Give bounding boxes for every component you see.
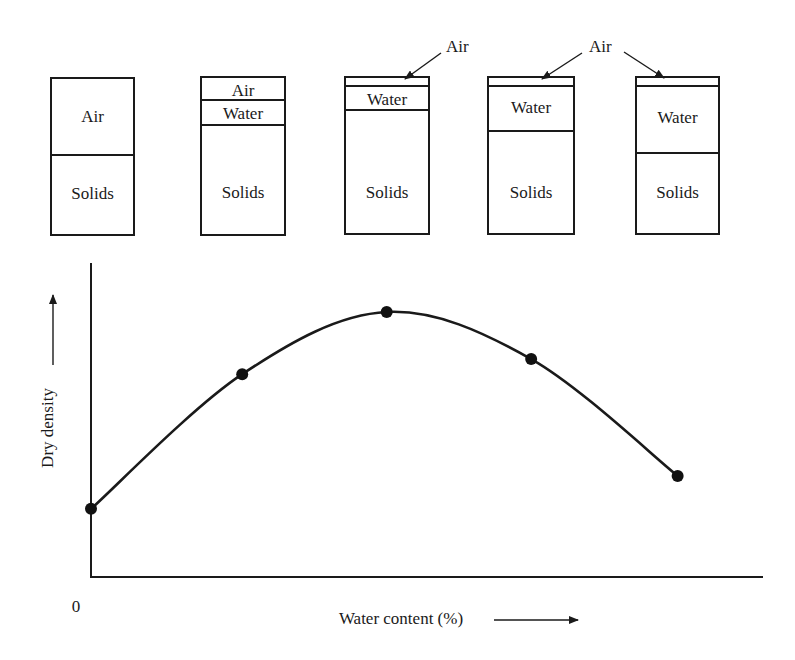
layer-label-solids: Solids xyxy=(510,183,553,202)
air-callout-2: Air xyxy=(542,37,664,79)
layer-label-solids: Solids xyxy=(366,183,409,202)
data-point-3 xyxy=(381,306,393,318)
air-callout-label: Air xyxy=(589,37,612,56)
phase-box-3: Water Solids xyxy=(345,77,429,234)
data-points xyxy=(85,306,684,515)
layer-label-solids: Solids xyxy=(222,183,265,202)
air-callout-1: Air xyxy=(405,37,469,79)
phase-box-5: Water Solids xyxy=(636,77,719,234)
phase-box-2: Air Water Solids xyxy=(201,77,285,235)
data-point-5 xyxy=(672,470,684,482)
air-callout-label: Air xyxy=(446,37,469,56)
compaction-chart: 0 Water content (%) Dry density xyxy=(38,263,763,628)
data-point-4 xyxy=(525,353,537,365)
phase-box-1: Air Solids xyxy=(51,78,134,235)
layer-label-air: Air xyxy=(232,81,255,100)
layer-label-water: Water xyxy=(223,104,263,123)
box-outline xyxy=(51,78,134,235)
layer-label-water: Water xyxy=(657,108,697,127)
origin-label: 0 xyxy=(72,597,81,616)
x-axis-label: Water content (%) xyxy=(339,609,463,628)
phase-box-4: Water Solids xyxy=(488,77,574,234)
layer-label-water: Water xyxy=(511,98,551,117)
layer-label-air: Air xyxy=(81,107,104,126)
arrow-icon xyxy=(624,52,664,78)
layer-label-water: Water xyxy=(367,90,407,109)
data-point-2 xyxy=(236,368,248,380)
compaction-figure: Air Solids Air Water Solids Water Solids… xyxy=(0,0,795,660)
arrow-icon xyxy=(405,53,441,79)
layer-label-solids: Solids xyxy=(71,184,114,203)
box-outline xyxy=(636,77,719,234)
data-point-1 xyxy=(85,503,97,515)
y-axis-label: Dry density xyxy=(38,388,57,468)
arrow-icon xyxy=(542,53,582,79)
phase-diagrams: Air Solids Air Water Solids Water Solids… xyxy=(51,37,719,235)
compaction-curve xyxy=(91,312,678,509)
layer-label-solids: Solids xyxy=(656,183,699,202)
